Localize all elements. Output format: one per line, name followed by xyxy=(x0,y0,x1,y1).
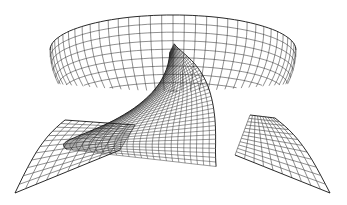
left-wing-surface xyxy=(15,120,135,193)
twisted-sheet-surface xyxy=(64,44,217,167)
right-wing-surface xyxy=(235,115,330,193)
wireframe-surface-figure xyxy=(0,0,347,205)
